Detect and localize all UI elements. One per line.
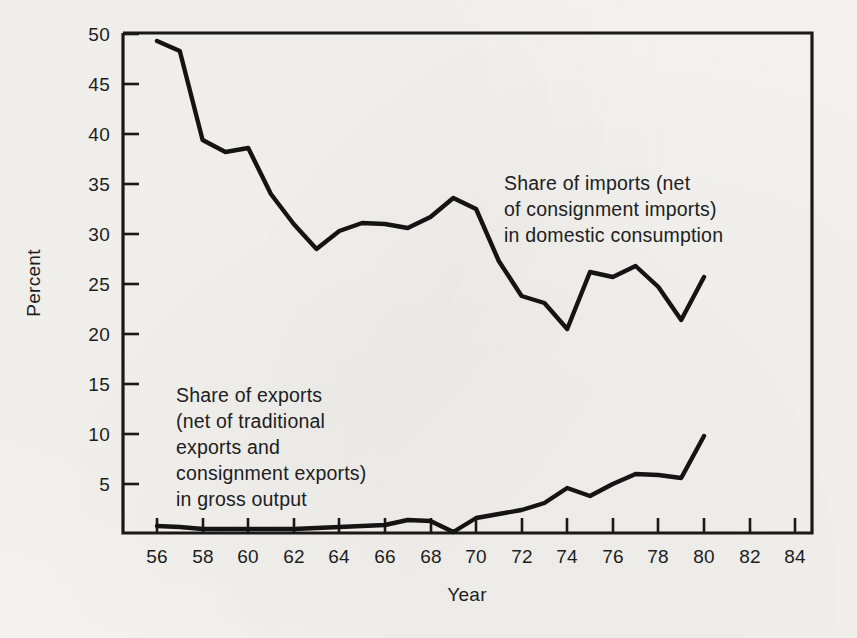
chart-canvas: 5 10 15 20 25 30 35 40 45 50 Percent xyxy=(0,0,857,638)
xtick-label: 76 xyxy=(602,546,624,567)
exports-annotation: Share of exports (net of traditional exp… xyxy=(176,384,366,510)
xtick-label: 56 xyxy=(146,546,168,567)
imports-annotation-line: in domestic consumption xyxy=(504,224,723,246)
exports-annotation-line: consignment exports) xyxy=(176,462,366,484)
xtick-label: 70 xyxy=(465,546,487,567)
xtick-label: 68 xyxy=(420,546,442,567)
ytick-label: 50 xyxy=(88,24,110,45)
y-axis-tick-labels: 5 10 15 20 25 30 35 40 45 50 xyxy=(88,24,110,495)
exports-annotation-line: (net of traditional xyxy=(176,410,325,432)
ytick-label: 10 xyxy=(88,424,110,445)
xtick-label: 64 xyxy=(328,546,350,567)
xtick-label: 74 xyxy=(556,546,578,567)
x-axis-title: Year xyxy=(447,584,487,605)
exports-annotation-line: exports and xyxy=(176,436,280,458)
xtick-label: 80 xyxy=(693,546,715,567)
ytick-label: 5 xyxy=(99,474,110,495)
ytick-label: 45 xyxy=(88,74,110,95)
xtick-label: 72 xyxy=(511,546,533,567)
xtick-label: 66 xyxy=(374,546,396,567)
y-axis-ticks xyxy=(123,34,139,484)
xtick-label: 62 xyxy=(283,546,305,567)
ytick-label: 25 xyxy=(88,274,110,295)
xtick-label: 84 xyxy=(784,546,806,567)
chart-figure: 5 10 15 20 25 30 35 40 45 50 Percent xyxy=(0,0,857,638)
y-axis-title: Percent xyxy=(23,249,44,317)
ytick-label: 15 xyxy=(88,374,110,395)
exports-annotation-line: Share of exports xyxy=(176,384,322,406)
imports-annotation-line: of consignment imports) xyxy=(504,198,717,220)
imports-annotation: Share of imports (net of consignment imp… xyxy=(504,172,723,246)
xtick-label: 60 xyxy=(237,546,259,567)
ytick-label: 35 xyxy=(88,174,110,195)
ytick-label: 30 xyxy=(88,224,110,245)
ytick-label: 20 xyxy=(88,324,110,345)
x-axis-tick-labels: 56 58 60 62 64 66 68 70 72 74 76 78 80 8… xyxy=(146,546,806,567)
ytick-label: 40 xyxy=(88,124,110,145)
xtick-label: 82 xyxy=(739,546,761,567)
axis-frame xyxy=(123,33,812,533)
xtick-label: 78 xyxy=(647,546,669,567)
exports-annotation-line: in gross output xyxy=(176,488,307,510)
imports-annotation-line: Share of imports (net xyxy=(504,172,691,194)
xtick-label: 58 xyxy=(192,546,214,567)
